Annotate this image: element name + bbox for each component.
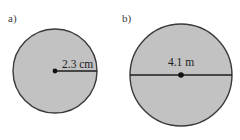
- part-label-a: a): [8, 12, 17, 25]
- radius-measure-label-a: 2.3 cm: [62, 58, 93, 70]
- figure-root: a) 2.3 cm b) 4.1 m: [0, 0, 240, 140]
- part-label-b: b): [122, 12, 132, 25]
- center-dot-a: [53, 69, 58, 74]
- circles-figure: a) 2.3 cm b) 4.1 m: [0, 0, 240, 140]
- diameter-measure-label-b: 4.1 m: [168, 56, 194, 68]
- figure-part-b: b) 4.1 m: [122, 12, 232, 126]
- center-dot-b: [178, 72, 184, 78]
- figure-part-a: a) 2.3 cm: [8, 12, 97, 113]
